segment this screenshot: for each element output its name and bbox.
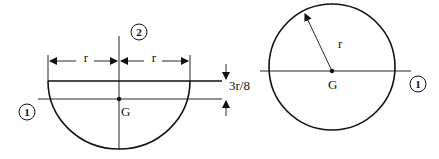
circle-centroid-label: G	[328, 77, 337, 92]
radius-label-right: r	[152, 50, 157, 65]
offset-label: 3r/8	[229, 78, 250, 93]
centroid-label: G	[121, 104, 130, 119]
circle-radius-label: r	[338, 36, 343, 51]
diagram-canvas: G r r 3r/8 1 2 r G 1	[0, 0, 439, 159]
centroid-dot	[117, 97, 121, 101]
semicircle-figure: G r r 3r/8 1 2	[19, 24, 250, 149]
circle-figure: r G 1	[260, 4, 426, 130]
radius-label-left: r	[84, 50, 89, 65]
axis-1-badge-label: 1	[24, 106, 30, 118]
circle-axis-1-badge-label: 1	[415, 78, 421, 90]
axis-2-badge-label: 2	[136, 26, 142, 38]
circle-radius-arrow	[305, 14, 332, 71]
circle-outline	[269, 4, 395, 130]
